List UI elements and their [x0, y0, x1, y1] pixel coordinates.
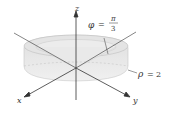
z-axis-label: z [74, 4, 80, 13]
x-axis-label: x [17, 96, 22, 105]
y-axis-label: y [132, 96, 138, 105]
svg-text:3: 3 [111, 25, 115, 33]
x-axis-arrow-icon [24, 92, 30, 97]
svg-text:=: = [147, 70, 154, 79]
svg-text:=: = [98, 20, 105, 29]
svg-text:2: 2 [156, 70, 161, 79]
phi-annotation: φ = π 3 [88, 15, 118, 33]
svg-text:π: π [110, 15, 116, 23]
rho-annotation: ρ = 2 [137, 69, 161, 79]
svg-text:ρ: ρ [137, 69, 144, 79]
svg-text:φ: φ [88, 20, 95, 30]
y-axis-arrow-icon [124, 92, 130, 97]
spherical-region-diagram: z x y φ = π 3 ρ = 2 [0, 0, 171, 115]
